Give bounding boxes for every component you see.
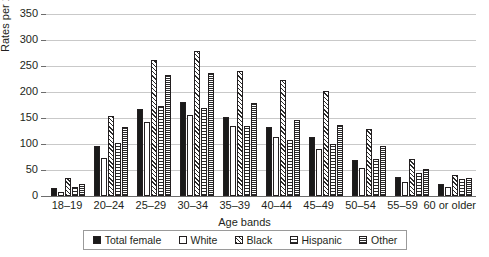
bar[interactable] [180, 102, 186, 196]
bar[interactable] [266, 127, 272, 196]
y-axis-tick-mark [41, 196, 46, 197]
bar[interactable] [395, 177, 401, 196]
bar[interactable] [244, 126, 250, 196]
bar-group [89, 14, 132, 196]
bar[interactable] [316, 149, 322, 196]
bar[interactable] [280, 80, 286, 196]
x-axis-tick-label: 60 or older [423, 199, 476, 211]
bar[interactable] [144, 122, 150, 196]
bar-groups [46, 14, 476, 196]
chart-figure: 350300250200150100500 Rates per 100,000 … [0, 0, 489, 257]
y-axis-tick-label: 50 [0, 164, 38, 175]
x-axis-tick-label: 18–19 [46, 199, 88, 211]
y-axis-title: Rates per 100,000 [0, 0, 11, 52]
legend-swatch-icon [93, 236, 101, 244]
legend-swatch-icon [290, 236, 298, 244]
bar[interactable] [359, 168, 365, 196]
bar-group [218, 14, 261, 196]
legend-label: Other [371, 234, 397, 246]
bar[interactable] [158, 106, 164, 196]
bar[interactable] [330, 144, 336, 196]
bar[interactable] [337, 125, 343, 196]
legend-label: White [191, 234, 218, 246]
bar[interactable] [151, 60, 157, 196]
bar-group [433, 14, 476, 196]
legend-label: Black [247, 234, 273, 246]
x-axis-tick-label: 55–59 [382, 199, 424, 211]
x-axis-tick-label: 45–49 [298, 199, 340, 211]
chart-legend: Total femaleWhiteBlackHispanicOther [83, 230, 407, 250]
bar-group [390, 14, 433, 196]
legend-swatch-icon [179, 236, 187, 244]
bar[interactable] [65, 178, 71, 196]
bar[interactable] [352, 160, 358, 196]
bar[interactable] [101, 158, 107, 196]
legend-item[interactable]: Black [235, 234, 273, 246]
x-axis-title: Age bands [0, 216, 489, 228]
bar[interactable] [187, 115, 193, 196]
bar[interactable] [208, 73, 214, 196]
x-axis-tick-label: 25–29 [130, 199, 172, 211]
x-axis-tick-label: 30–34 [172, 199, 214, 211]
bar[interactable] [72, 187, 78, 196]
bar[interactable] [445, 187, 451, 196]
bar[interactable] [323, 91, 329, 196]
bar[interactable] [251, 103, 257, 196]
bar[interactable] [51, 188, 57, 196]
bar[interactable] [459, 179, 465, 196]
bar[interactable] [366, 129, 372, 196]
bar[interactable] [452, 175, 458, 196]
legend-item[interactable]: Hispanic [290, 234, 342, 246]
bar[interactable] [409, 159, 415, 196]
bar[interactable] [94, 146, 100, 196]
bar-group [175, 14, 218, 196]
legend-item[interactable]: Total female [93, 234, 162, 246]
x-axis-tick-label: 50–54 [340, 199, 382, 211]
bar[interactable] [58, 192, 64, 196]
bar[interactable] [373, 159, 379, 196]
x-axis-tick-label: 40–44 [256, 199, 298, 211]
x-axis-tick-label: 35–39 [214, 199, 256, 211]
bar[interactable] [380, 146, 386, 196]
bar[interactable] [108, 116, 114, 196]
bar-group [132, 14, 175, 196]
bar[interactable] [79, 184, 85, 196]
legend-item[interactable]: Other [359, 234, 397, 246]
y-axis-tick-label: 100 [0, 138, 38, 149]
x-axis-tick-label: 20–24 [88, 199, 130, 211]
bar-group [304, 14, 347, 196]
bar[interactable] [309, 137, 315, 196]
bar[interactable] [165, 75, 171, 196]
bar[interactable] [402, 182, 408, 196]
bar[interactable] [194, 51, 200, 196]
bar-group [46, 14, 89, 196]
bar-group [261, 14, 304, 196]
legend-swatch-icon [359, 236, 367, 244]
axis-baseline [46, 196, 476, 197]
bar[interactable] [423, 169, 429, 196]
y-axis-tick-label: 250 [0, 60, 38, 71]
bar[interactable] [438, 184, 444, 196]
y-axis-tick-label: 0 [0, 190, 38, 201]
bar[interactable] [137, 109, 143, 196]
bar[interactable] [273, 137, 279, 196]
bar[interactable] [122, 127, 128, 196]
y-axis-tick-label: 150 [0, 112, 38, 123]
legend-label: Hispanic [302, 234, 342, 246]
bar[interactable] [466, 178, 472, 196]
y-axis-tick-label: 200 [0, 86, 38, 97]
bar[interactable] [294, 120, 300, 196]
bar[interactable] [416, 173, 422, 196]
legend-swatch-icon [235, 236, 243, 244]
legend-label: Total female [105, 234, 162, 246]
bar[interactable] [230, 126, 236, 196]
x-axis-tick-labels: 18–1920–2425–2930–3435–3940–4445–4950–54… [46, 199, 476, 211]
bar[interactable] [287, 140, 293, 196]
bar[interactable] [115, 143, 121, 196]
bar[interactable] [237, 71, 243, 196]
bar[interactable] [201, 108, 207, 196]
bar[interactable] [223, 117, 229, 196]
legend-item[interactable]: White [179, 234, 218, 246]
bar-group [347, 14, 390, 196]
